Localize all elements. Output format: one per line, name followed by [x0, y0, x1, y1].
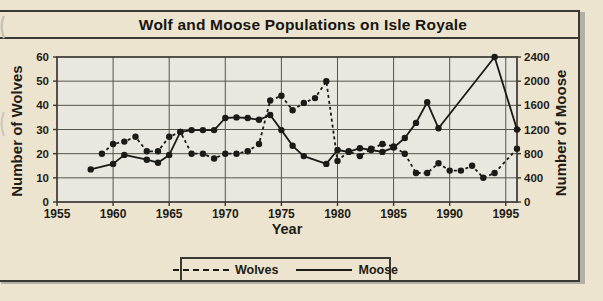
wolves-data-point	[514, 146, 520, 152]
moose-data-point	[323, 161, 329, 167]
moose-data-point	[491, 54, 497, 60]
moose-data-point	[413, 120, 419, 126]
moose-data-point	[402, 135, 408, 141]
wolves-data-point	[469, 163, 475, 169]
x-tick-label: 1955	[44, 207, 71, 221]
wolves-data-point	[267, 97, 273, 103]
wolves-data-point	[480, 175, 486, 181]
page-edge-artifact	[2, 112, 4, 136]
wolves-data-point	[233, 151, 239, 157]
moose-data-point	[424, 99, 430, 105]
moose-data-point	[121, 152, 127, 158]
wolves-data-point	[200, 151, 206, 157]
moose-data-point	[233, 114, 239, 120]
wolves-data-point	[323, 78, 329, 84]
moose-data-point	[245, 115, 251, 121]
wolves-data-point	[413, 170, 419, 176]
legend-label-wolves: Wolves	[235, 263, 279, 277]
x-tick-label: 1975	[268, 207, 295, 221]
legend-label-moose: Moose	[358, 263, 398, 277]
moose-data-point	[514, 126, 520, 132]
y-right-tick-label: 2000	[524, 75, 550, 87]
y-left-tick-label: 60	[36, 51, 49, 63]
legend-item-moose: Moose	[296, 263, 398, 277]
wolves-data-point	[245, 148, 251, 154]
moose-data-point	[110, 161, 116, 167]
wolves-data-point	[312, 95, 318, 101]
x-tick-label: 1960	[100, 207, 127, 221]
moose-data-point	[357, 145, 363, 151]
legend: Wolves Moose	[180, 257, 391, 282]
moose-data-point	[211, 127, 217, 133]
wolves-data-point	[379, 141, 385, 147]
moose-data-point	[166, 152, 172, 158]
page: { "figure": { "title": "Wolf and Moose P…	[0, 0, 603, 301]
moose-data-point	[88, 166, 94, 172]
y-axis-title-wolves: Number of Wolves	[8, 65, 25, 196]
moose-data-point	[155, 160, 161, 166]
wolves-data-point	[211, 155, 217, 161]
wolves-data-point	[435, 160, 441, 166]
y-left-tick-label: 40	[36, 99, 49, 111]
plot-area: 1955196019651970197519801985199019950102…	[0, 0, 603, 301]
page-edge-artifact	[2, 16, 4, 38]
moose-data-point	[177, 129, 183, 135]
x-tick-label: 1965	[156, 207, 183, 221]
moose-data-point	[346, 149, 352, 155]
y-left-tick-label: 0	[43, 196, 49, 208]
moose-data-point	[278, 127, 284, 133]
moose-data-point	[435, 125, 441, 131]
wolves-data-point	[491, 170, 497, 176]
y-left-tick-label: 10	[36, 172, 49, 184]
moose-data-point	[267, 112, 273, 118]
moose-data-point	[188, 127, 194, 133]
wolves-data-point	[222, 151, 228, 157]
wolves-data-point	[155, 148, 161, 154]
moose-data-point	[256, 117, 262, 123]
y-left-tick-label: 30	[36, 124, 49, 136]
wolves-data-point	[334, 158, 340, 164]
wolves-data-point	[132, 134, 138, 140]
y-axis-title-moose: Number of Moose	[552, 70, 569, 197]
x-tick-label: 1995	[492, 207, 519, 221]
y-right-tick-label: 0	[524, 196, 530, 208]
moose-data-point	[301, 153, 307, 159]
x-tick-label: 1990	[436, 207, 463, 221]
moose-data-point	[222, 115, 228, 121]
wolves-data-point	[458, 167, 464, 173]
y-right-tick-label: 800	[524, 148, 543, 160]
wolves-data-point	[402, 151, 408, 157]
wolves-data-point	[144, 148, 150, 154]
wolves-data-point	[447, 167, 453, 173]
wolves-data-point	[166, 134, 172, 140]
legend-item-wolves: Wolves	[173, 263, 279, 277]
wolves-data-point	[357, 153, 363, 159]
moose-data-point	[334, 147, 340, 153]
wolves-data-point	[188, 151, 194, 157]
wolves-dashed-line-sample	[173, 269, 229, 271]
x-tick-label: 1970	[212, 207, 239, 221]
moose-data-point	[144, 157, 150, 163]
wolves-data-point	[278, 93, 284, 99]
y-left-tick-label: 50	[36, 75, 49, 87]
x-tick-label: 1980	[324, 207, 351, 221]
wolves-data-point	[99, 151, 105, 157]
y-right-tick-label: 400	[524, 172, 543, 184]
wolves-data-point	[110, 141, 116, 147]
wolves-data-point	[301, 100, 307, 106]
y-left-tick-label: 20	[36, 148, 49, 160]
wolves-data-point	[289, 107, 295, 113]
y-right-tick-label: 1600	[524, 99, 550, 111]
wolves-data-point	[424, 170, 430, 176]
moose-data-point	[390, 144, 396, 150]
wolves-data-point	[121, 138, 127, 144]
y-right-tick-label: 2400	[524, 51, 550, 63]
moose-data-point	[368, 147, 374, 153]
moose-data-point	[289, 143, 295, 149]
moose-data-point	[200, 127, 206, 133]
x-axis-title: Year	[272, 221, 303, 237]
x-tick-label: 1985	[380, 207, 407, 221]
moose-solid-line-sample	[296, 269, 352, 271]
moose-data-point	[379, 149, 385, 155]
wolves-data-point	[256, 141, 262, 147]
